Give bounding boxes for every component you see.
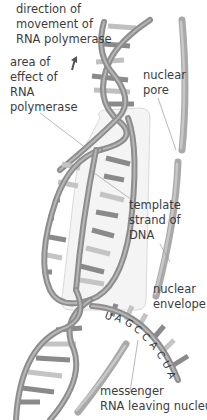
label-direction: direction of movement of RNA polymerase [16,2,112,47]
label-area-of-effect: area of effect of RNA polymerase [10,55,77,115]
rna-base-letter: U [103,310,114,323]
label-template-strand: template strand of DNA [129,198,181,243]
transcription-diagram: U A G C C A C U A direction of movement … [0,0,207,420]
label-nuclear-envelope: nuclear envelope [153,282,206,312]
label-nuclear-pore: nuclear pore [143,68,186,98]
rna-base-letter: C [140,331,153,344]
rna-base-letter: A [147,339,160,351]
label-messenger-rna: messenger RNA leaving nucleus [100,384,207,414]
rna-base-letter: C [132,323,144,336]
